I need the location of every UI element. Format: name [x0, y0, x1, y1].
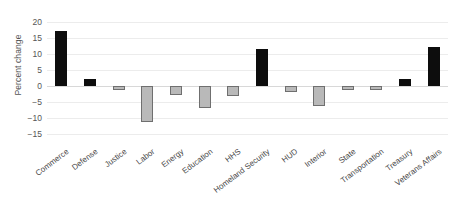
bar-labor: [141, 86, 153, 122]
bar-justice: [113, 86, 125, 90]
bar-defense: [84, 79, 96, 86]
y-tick-label: 15: [14, 33, 42, 43]
bar-state: [342, 86, 354, 90]
y-tick-label: −5: [14, 97, 42, 107]
y-tick-label: 20: [14, 17, 42, 27]
x-tick-label-hhs: HHS: [224, 147, 243, 164]
bar-commerce: [55, 31, 67, 86]
x-tick-label-commerce: Commerce: [34, 147, 71, 178]
x-tick-label-labor: Labor: [135, 147, 157, 167]
bar-hhs: [227, 86, 239, 97]
bar-veterans-affairs: [428, 47, 440, 86]
bar-hud: [285, 86, 297, 92]
gridline-20: [47, 22, 448, 23]
bar-treasury: [399, 79, 411, 86]
x-tick-label-hud: HUD: [281, 147, 300, 165]
x-tick-label-state: State: [337, 147, 357, 165]
gridline--15: [47, 134, 448, 135]
bar-chart: Percent change 20151050−5−10−15 Commerce…: [0, 0, 456, 224]
gridline-0: [47, 86, 448, 87]
y-tick-label: −10: [14, 113, 42, 123]
plot-area: [47, 17, 448, 142]
gridline-15: [47, 38, 448, 39]
bar-education: [199, 86, 211, 108]
x-tick-label-education: Education: [180, 147, 214, 176]
bar-transportation: [370, 86, 382, 90]
y-tick-label: −15: [14, 129, 42, 139]
y-tick-label: 0: [14, 81, 42, 91]
bar-energy: [170, 86, 182, 96]
y-tick-label: 5: [14, 65, 42, 75]
x-tick-label-justice: Justice: [103, 147, 128, 169]
x-tick-label-interior: Interior: [303, 147, 328, 169]
gridline--5: [47, 102, 448, 103]
bar-interior: [313, 86, 325, 106]
gridline--10: [47, 118, 448, 119]
gridline-10: [47, 54, 448, 55]
bar-homeland-security: [256, 49, 268, 86]
gridline-5: [47, 70, 448, 71]
y-tick-label: 10: [14, 49, 42, 59]
x-tick-label-defense: Defense: [70, 147, 99, 172]
